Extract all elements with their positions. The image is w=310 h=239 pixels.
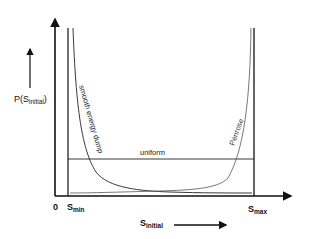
origin-label: 0 (53, 203, 58, 212)
penrose-curve (70, 28, 251, 193)
x-axis-label-sub: initial (146, 222, 163, 229)
uniform-label: uniform (140, 148, 165, 157)
smooth-energy-dump-label: smooth energy dump (77, 84, 105, 154)
y-axis-label-sub: initial (29, 98, 44, 105)
s-min-sub: min (73, 206, 85, 213)
y-axis-label-close: ) (44, 94, 47, 104)
y-axis-label: P(Sinitial) (14, 95, 47, 106)
diagram-canvas: smooth energy dump Penrose uniform (0, 0, 310, 239)
s-max-label: Smax (248, 205, 267, 216)
smooth-energy-dump-curve (73, 28, 252, 193)
s-min-label: Smin (67, 203, 85, 214)
s-max-sub: max (254, 208, 267, 215)
x-axis-label: Sinitial (140, 219, 163, 230)
y-axis-label-main: P(S (14, 94, 29, 104)
